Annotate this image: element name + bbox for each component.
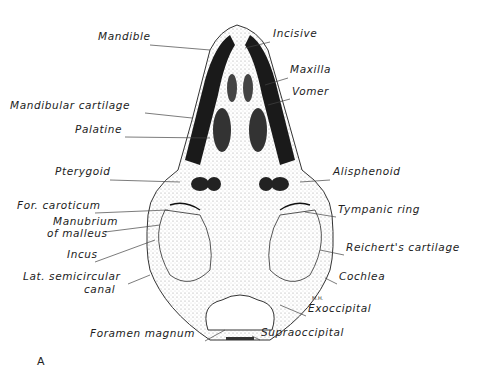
- anatomy-label: canal: [84, 283, 115, 295]
- anatomy-label: Supraoccipital: [261, 326, 344, 338]
- skull-illustration: M.H.: [0, 0, 493, 377]
- anatomy-label: Foramen magnum: [90, 327, 195, 339]
- anatomy-label: Pterygoid: [55, 165, 111, 177]
- anatomy-label: Alisphenoid: [333, 165, 401, 177]
- anatomy-label: Exoccipital: [308, 302, 371, 314]
- anatomy-label: Cochlea: [339, 270, 385, 282]
- anatomy-label: Mandible: [98, 30, 151, 42]
- anatomy-label: Manubrium: [53, 215, 118, 227]
- anatomy-label: Reichert's cartilage: [346, 241, 460, 253]
- anatomy-label: Tympanic ring: [338, 203, 420, 215]
- anatomy-label: Maxilla: [290, 63, 331, 75]
- anatomy-label: Mandibular cartilage: [10, 99, 130, 111]
- illustrator-initials: M.H.: [312, 295, 324, 301]
- panel-label: A: [37, 355, 45, 368]
- anatomy-label: Palatine: [75, 123, 122, 135]
- anatomy-label: Vomer: [292, 85, 329, 97]
- anatomy-label: For. caroticum: [17, 199, 101, 211]
- anatomy-label: Lat. semicircular: [23, 270, 120, 282]
- anatomy-label: of malleus: [47, 227, 108, 239]
- left-palatine: [213, 108, 231, 152]
- right-palatine: [249, 108, 267, 152]
- anatomy-label: Incus: [67, 248, 98, 260]
- anatomy-label: Incisive: [273, 27, 317, 39]
